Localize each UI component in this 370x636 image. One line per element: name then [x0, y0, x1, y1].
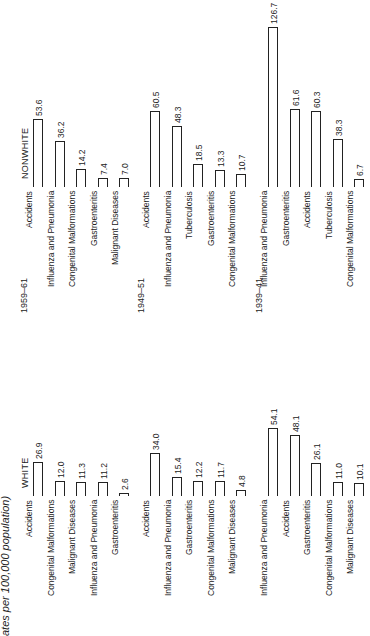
category-label: Malignant Diseases	[67, 500, 77, 574]
category-label: Gastroenteritis	[302, 500, 312, 555]
value-label: 10.7	[237, 154, 247, 171]
value-label: 26.9	[34, 443, 44, 460]
value-label: 60.5	[151, 91, 161, 108]
bar	[55, 141, 65, 187]
value-label: 61.6	[291, 90, 301, 107]
category-label: Gastroenteritis	[184, 500, 194, 555]
category-label: Malignant Diseases	[227, 500, 237, 574]
value-label: 12.2	[194, 461, 204, 478]
value-label: 53.6	[34, 100, 44, 117]
value-label: 11.2	[99, 463, 109, 479]
category-label: Accidents	[24, 191, 34, 228]
period-label: 1949–51	[136, 278, 146, 313]
bar	[354, 179, 364, 187]
value-label: 48.1	[291, 416, 301, 433]
value-label: 38.3	[334, 119, 344, 136]
category-label: Influenza and Pneumonia	[163, 191, 173, 287]
axis-title: ates per 100,000 population)	[0, 496, 10, 636]
bar	[333, 139, 343, 187]
value-label: 48.3	[173, 107, 183, 124]
value-label: 7.0	[120, 163, 130, 175]
value-label: 4.8	[237, 475, 247, 487]
bar	[354, 483, 364, 496]
category-label: Congenital Malformations	[227, 191, 237, 287]
category-label: Influenza and Pneumonia	[163, 500, 173, 596]
category-label: Congenital Malformations	[324, 500, 334, 596]
category-label: Influenza and Pneumonia	[46, 191, 56, 287]
value-label: 54.1	[269, 408, 279, 425]
bar	[33, 462, 43, 496]
category-label: Congenital Malformations	[345, 191, 355, 287]
value-label: 10.1	[355, 464, 365, 481]
bar	[215, 170, 225, 187]
bar	[215, 481, 225, 496]
bar	[333, 482, 343, 496]
bar	[290, 109, 300, 187]
bar	[311, 111, 321, 187]
bar	[150, 111, 160, 187]
value-label: 34.0	[151, 434, 161, 451]
bar	[119, 178, 129, 187]
category-label: Influenza and Pneumonia	[259, 191, 269, 287]
period-label: 1959–61	[19, 278, 29, 313]
value-label: 11.0	[334, 463, 344, 479]
group-label: WHITE	[20, 458, 30, 489]
value-label: 11.3	[77, 463, 87, 479]
value-label: 14.2	[77, 150, 87, 167]
value-label: 12.0	[56, 461, 66, 478]
bar	[76, 169, 86, 187]
category-label: Congenital Malformations	[206, 500, 216, 596]
category-label: Malignant Diseases	[110, 191, 120, 265]
value-label: 36.2	[56, 122, 66, 139]
category-label: Gastroenteritis	[89, 191, 99, 246]
category-label: Gastroenteritis	[281, 191, 291, 246]
bar	[193, 164, 203, 187]
bar	[119, 493, 129, 496]
value-label: 126.7	[269, 3, 279, 24]
value-label: 60.3	[312, 91, 322, 108]
category-label: Accidents	[24, 500, 34, 537]
value-label: 15.4	[173, 457, 183, 474]
category-label: Congenital Malformations	[67, 191, 77, 287]
category-label: Accidents	[141, 191, 151, 228]
category-label: Accidents	[281, 500, 291, 537]
group-label: NONWHITE	[20, 128, 30, 179]
value-label: 7.4	[99, 163, 109, 175]
value-label: 6.7	[355, 164, 365, 176]
bar	[98, 178, 108, 187]
category-label: Influenza and Pneumonia	[259, 500, 269, 596]
value-label: 26.1	[312, 444, 322, 461]
bar	[268, 27, 278, 187]
category-label: Influenza and Pneumonia	[89, 500, 99, 596]
category-label: Accidents	[302, 191, 312, 228]
bar	[172, 477, 182, 496]
bar	[33, 119, 43, 187]
bar	[193, 481, 203, 496]
value-label: 13.3	[216, 151, 226, 168]
bar	[150, 453, 160, 496]
category-label: Gastroenteritis	[206, 191, 216, 246]
value-label: 18.5	[194, 144, 204, 161]
category-label: Malignant Diseases	[345, 500, 355, 574]
value-label: 11.7	[216, 462, 226, 478]
value-label: 2.6	[120, 478, 130, 490]
category-label: Congenital Malformations	[46, 500, 56, 596]
category-label: Tuberculosis	[324, 191, 334, 239]
bar	[55, 481, 65, 496]
bar	[290, 435, 300, 496]
bar	[311, 463, 321, 496]
bar	[268, 428, 278, 496]
bar	[76, 482, 86, 496]
bar	[236, 174, 246, 187]
bar	[98, 482, 108, 496]
bar	[172, 126, 182, 187]
bar	[236, 490, 246, 496]
category-label: Tuberculosis	[184, 191, 194, 239]
category-label: Gastroenteritis	[110, 500, 120, 555]
category-label: Accidents	[141, 500, 151, 537]
